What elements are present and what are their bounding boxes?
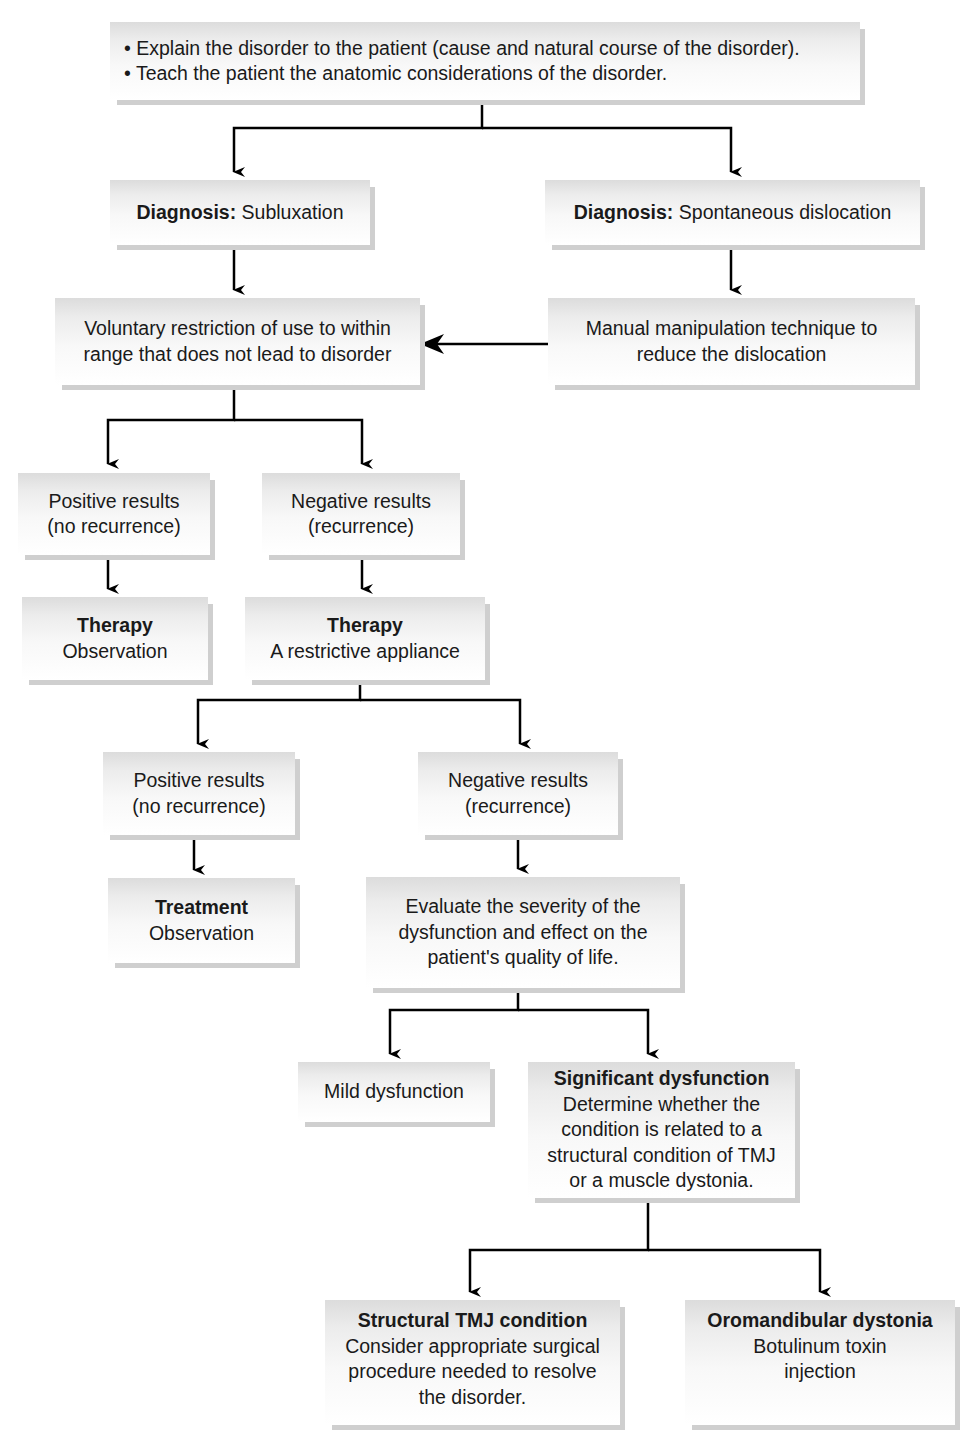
diagnosis-subluxation-box: Diagnosis: Subluxation <box>110 180 370 245</box>
manual-manipulation-box: Manual manipulation technique to reduce … <box>548 298 915 385</box>
box-text: Negative results <box>291 489 431 515</box>
negative-results-box-2: Negative results (recurrence) <box>418 752 618 835</box>
therapy-observation-box: Therapy Observation <box>22 597 208 680</box>
negative-results-box-1: Negative results (recurrence) <box>262 473 460 555</box>
box-text: Observation <box>62 639 167 665</box>
treatment-observation-box: Treatment Observation <box>108 878 295 963</box>
box-title: Oromandibular dystonia <box>707 1308 932 1334</box>
box-title: Significant dysfunction <box>554 1066 770 1092</box>
box-text: Negative results <box>448 768 588 794</box>
diagnosis-value: Subluxation <box>236 201 343 223</box>
structural-tmj-box: Structural TMJ condition Consider approp… <box>325 1300 620 1425</box>
box-text: injection <box>784 1359 856 1385</box>
box-title: Therapy <box>77 613 153 639</box>
box-text: reduce the dislocation <box>637 342 827 368</box>
box-text: Positive results <box>48 489 179 515</box>
evaluate-severity-box: Evaluate the severity of the dysfunction… <box>366 877 680 988</box>
box-title: Structural TMJ condition <box>358 1308 588 1334</box>
box-text: or a muscle dystonia. <box>569 1168 753 1194</box>
significant-dysfunction-box: Significant dysfunction Determine whethe… <box>528 1062 795 1198</box>
oromandibular-dystonia-box: Oromandibular dystonia Botulinum toxin i… <box>685 1300 955 1425</box>
box-text: Determine whether the <box>563 1092 760 1118</box>
voluntary-restriction-box: Voluntary restriction of use to within r… <box>55 298 420 385</box>
intro-box: • Explain the disorder to the patient (c… <box>110 22 860 100</box>
box-text: procedure needed to resolve <box>348 1359 596 1385</box>
box-text: Mild dysfunction <box>324 1079 464 1105</box>
mild-dysfunction-box: Mild dysfunction <box>298 1062 490 1122</box>
box-text: structural condition of TMJ <box>547 1143 775 1169</box>
intro-bullet-1: • Explain the disorder to the patient (c… <box>124 36 800 62</box>
box-text: the disorder. <box>419 1385 526 1411</box>
diagnosis-label: Diagnosis: <box>574 201 674 223</box>
box-text: Positive results <box>133 768 264 794</box>
box-text: Evaluate the severity of the <box>405 894 640 920</box>
box-text: Consider appropriate surgical <box>345 1334 600 1360</box>
box-text: Voluntary restriction of use to within <box>84 316 391 342</box>
box-text: patient's quality of life. <box>427 945 618 971</box>
box-title: Therapy <box>327 613 403 639</box>
box-text: (no recurrence) <box>132 794 265 820</box>
box-text: (recurrence) <box>465 794 571 820</box>
box-text: A restrictive appliance <box>270 639 460 665</box>
therapy-appliance-box: Therapy A restrictive appliance <box>245 597 485 680</box>
positive-results-box-2: Positive results (no recurrence) <box>103 752 295 835</box>
diagnosis-value: Spontaneous dislocation <box>673 201 891 223</box>
box-title: Treatment <box>155 895 248 921</box>
box-text: dysfunction and effect on the <box>399 920 648 946</box>
box-text: range that does not lead to disorder <box>84 342 392 368</box>
box-text: Botulinum toxin <box>753 1334 886 1360</box>
box-text: (recurrence) <box>308 514 414 540</box>
box-text: condition is related to a <box>561 1117 762 1143</box>
intro-bullet-2: • Teach the patient the anatomic conside… <box>124 61 667 87</box>
diagnosis-label: Diagnosis: <box>136 201 236 223</box>
positive-results-box-1: Positive results (no recurrence) <box>18 473 210 555</box>
box-text: (no recurrence) <box>47 514 180 540</box>
box-text: Observation <box>149 921 254 947</box>
box-text: Manual manipulation technique to <box>586 316 878 342</box>
diagnosis-dislocation-box: Diagnosis: Spontaneous dislocation <box>545 180 920 245</box>
